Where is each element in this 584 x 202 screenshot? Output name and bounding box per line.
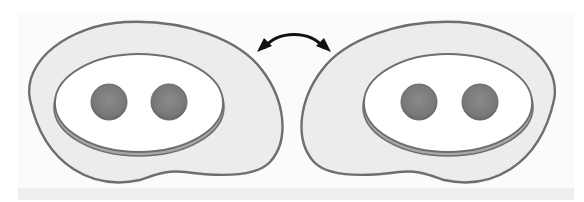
right-sphere-2 — [462, 84, 498, 120]
interconversion-arrow-icon — [257, 35, 331, 53]
right-cell-interior — [363, 54, 533, 156]
left-inner-compartment — [55, 54, 223, 152]
left-sphere-2 — [151, 84, 187, 120]
left-sphere-1 — [91, 84, 127, 120]
diagram-canvas — [0, 0, 584, 202]
diagram-svg — [0, 0, 584, 202]
right-inner-compartment — [364, 54, 532, 152]
right-sphere-1 — [401, 84, 437, 120]
left-cell — [29, 22, 282, 183]
